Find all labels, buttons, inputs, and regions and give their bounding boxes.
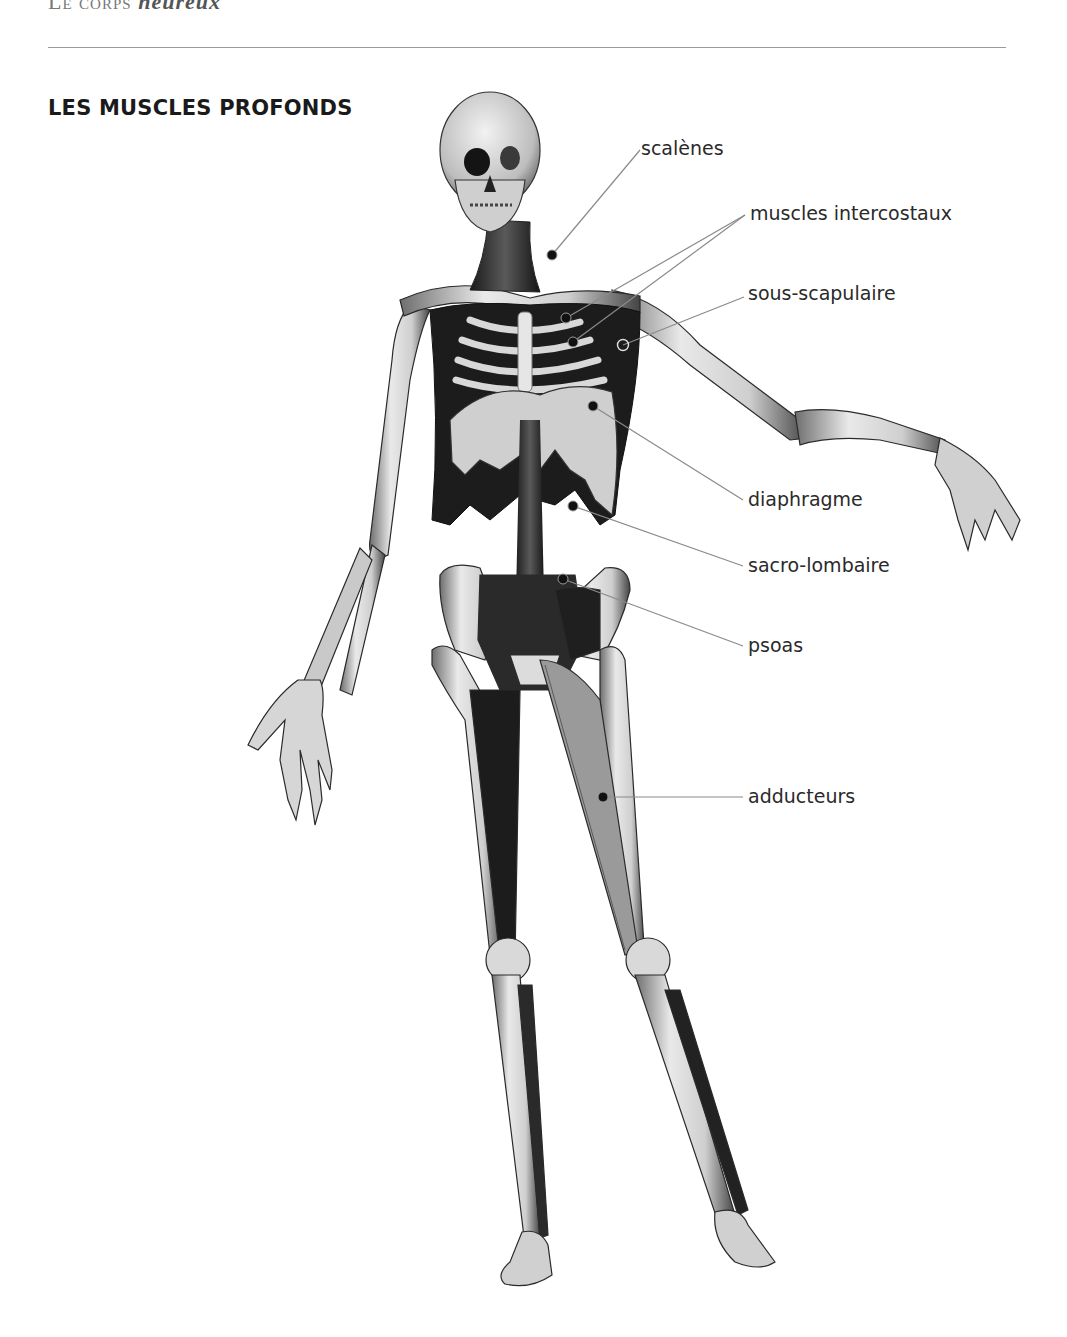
marker-dot-diaphragme — [588, 401, 598, 411]
right-arm — [612, 290, 1020, 550]
leader-line-scalenes — [552, 150, 640, 255]
label-sous-scapulaire: sous-scapulaire — [748, 284, 896, 303]
leader-line-sacro-lombaire — [573, 506, 743, 566]
label-scalenes: scalènes — [641, 139, 724, 158]
label-intercostaux: muscles intercostaux — [750, 204, 952, 223]
skeleton-illustration — [0, 0, 1067, 1337]
marker-dot-psoas — [558, 574, 568, 584]
left-arm — [248, 305, 430, 825]
label-psoas: psoas — [748, 636, 803, 655]
marker-dot-scalenes — [547, 250, 557, 260]
marker-dot-intercostaux — [568, 337, 578, 347]
leader-line-intercostaux — [566, 215, 745, 318]
sternum — [518, 312, 532, 392]
marker-dot-sacro-lombaire — [568, 501, 578, 511]
legs — [432, 646, 775, 1286]
marker-dot-adducteurs — [598, 792, 608, 802]
label-diaphragme: diaphragme — [748, 490, 863, 509]
skull — [440, 92, 540, 232]
neck — [470, 220, 540, 292]
label-adducteurs: adducteurs — [748, 787, 855, 806]
label-sacro-lombaire: sacro-lombaire — [748, 556, 890, 575]
marker-dot-intercostaux — [561, 313, 571, 323]
